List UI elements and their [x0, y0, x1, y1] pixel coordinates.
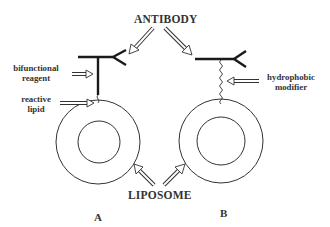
antibody-a — [78, 50, 126, 103]
antibody-b — [195, 51, 246, 104]
reactive-lipid-line1: reactive — [14, 94, 58, 104]
panel-label-a: A — [94, 212, 102, 223]
bifunctional-reagent-line2: reagent — [8, 73, 64, 83]
bifunctional-reagent-line1: bifunctional — [8, 63, 64, 73]
reactive-lipid-label: reactive lipid — [14, 94, 58, 114]
hydrophobic-modifier-label: hydrophobic modifier — [260, 72, 322, 92]
panel-label-b: B — [220, 208, 227, 219]
liposome-a — [56, 100, 140, 184]
arrow-antibody-to-a — [129, 28, 153, 54]
arrow-liposome-to-a — [134, 164, 154, 185]
bifunctional-reagent-label: bifunctional reagent — [8, 63, 64, 83]
arrow-liposome-to-b — [164, 164, 185, 185]
liposome-label: LIPOSOME — [128, 190, 192, 202]
hydrophobic-modifier-line2: modifier — [260, 82, 322, 92]
arrow-bifunctional-reagent — [72, 70, 93, 78]
antibody-label: ANTIBODY — [134, 14, 198, 26]
liposome-b — [179, 99, 263, 183]
arrow-hydrophobic-modifier — [227, 77, 259, 85]
arrow-antibody-to-b — [165, 28, 192, 55]
reactive-lipid-line2: lipid — [14, 104, 58, 114]
hydrophobic-modifier-line1: hydrophobic — [260, 72, 322, 82]
diagram-canvas: ANTIBODY LIPOSOME bifunctional reagent r… — [0, 0, 330, 227]
